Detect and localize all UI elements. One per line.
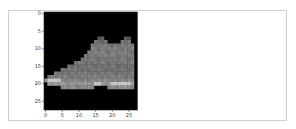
y-tick-label: 5: [29, 29, 41, 34]
imshow-figure: 0 5 10 15 20 25 0 5 10 15 20 25: [0, 0, 296, 129]
x-tick-label: 10: [73, 113, 85, 118]
y-tick-label: 15: [29, 64, 41, 69]
y-tick-label: 25: [29, 99, 41, 104]
image-plot: [0, 0, 296, 129]
x-tick-label: 5: [56, 113, 68, 118]
y-tick-label: 0: [29, 11, 41, 16]
x-tick-label: 15: [90, 113, 102, 118]
y-tick-label: 20: [29, 81, 41, 86]
y-tick-label: 10: [29, 46, 41, 51]
x-tick-label: 25: [123, 113, 135, 118]
x-tick-label: 20: [106, 113, 118, 118]
boot-image-pixels: [44, 12, 137, 110]
x-tick-label: 0: [40, 113, 52, 118]
